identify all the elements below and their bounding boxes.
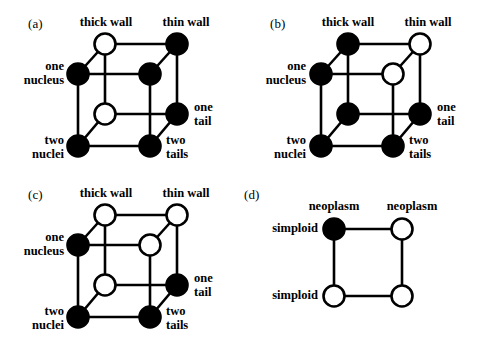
cube-edges xyxy=(78,44,177,146)
panel-d-tag: (d) xyxy=(244,187,259,203)
panel-c-label-two-nuclei-line2: nuclei xyxy=(0,319,64,333)
panel-a-label-two-nuclei-line1: two xyxy=(0,134,64,148)
panel-b-label-one-tail-line1: one xyxy=(437,101,485,115)
panel-a-label-two-tails-line2: tails xyxy=(166,148,222,162)
panel-d-label-neoplasm-right: neoplasm xyxy=(370,200,454,214)
node-front-top-left xyxy=(311,64,332,85)
panel-c-label-one-nucleus-line2: nucleus xyxy=(0,245,64,259)
panel-c-label-one-tail-line2: tail xyxy=(194,286,242,300)
panel-c-label-thin-wall: thin wall xyxy=(148,187,224,201)
panel-a-label-two-tails-line1: two xyxy=(166,134,222,148)
panel-b-label-thick-wall: thick wall xyxy=(306,16,390,30)
node-back-bottom-left xyxy=(95,275,116,296)
panel-c-label-one-nucleus-line1: one xyxy=(0,231,64,245)
panel-b-label-one-nucleus-line2: nucleus xyxy=(244,74,306,88)
node-bottom-right xyxy=(392,286,413,307)
panel-b-label-two-nuclei-line1: two xyxy=(244,134,306,148)
panel-a-label-one-tail-line1: one xyxy=(194,101,242,115)
node-back-bottom-right xyxy=(167,275,188,296)
panel-c-label-one-tail-line1: one xyxy=(194,272,242,286)
node-back-bottom-left xyxy=(338,104,359,125)
panel-b-label-one-tail-line2: tail xyxy=(437,115,485,129)
node-back-bottom-right xyxy=(167,104,188,125)
node-top-left xyxy=(324,219,345,240)
node-front-top-right xyxy=(383,64,404,85)
panel-a-label-one-tail-line2: tail xyxy=(194,115,242,129)
panel-c-label-two-tails-line2: tails xyxy=(166,319,222,333)
panel-c-label-thick-wall: thick wall xyxy=(64,187,148,201)
cube-edges xyxy=(78,215,177,317)
cube-edges xyxy=(321,44,420,146)
panel-d: (d) neoplasm neoplasm simploid simploid xyxy=(244,176,487,351)
node-back-top-left xyxy=(95,34,116,55)
node-back-top-left xyxy=(95,205,116,226)
node-front-bottom-left xyxy=(311,136,332,157)
node-back-top-right xyxy=(167,205,188,226)
panel-d-label-simploid-upper: simploid xyxy=(244,222,318,236)
node-back-bottom-right xyxy=(410,104,431,125)
node-back-top-right xyxy=(167,34,188,55)
panel-b-label-one-nucleus-line1: one xyxy=(244,60,306,74)
node-front-bottom-right xyxy=(383,136,404,157)
node-back-top-left xyxy=(338,34,359,55)
node-bottom-left xyxy=(324,286,345,307)
panel-a-label-one-nucleus-line1: one xyxy=(0,60,64,74)
panel-b: (b) thick wall thin wall one nucleus two… xyxy=(244,0,487,176)
panel-c-tag: (c) xyxy=(28,187,43,203)
node-front-top-right xyxy=(140,64,161,85)
panel-a-label-thin-wall: thin wall xyxy=(148,16,224,30)
figure-panels-abcd: (a) thick wall thin wall one nucleus two… xyxy=(0,0,487,351)
panel-d-label-neoplasm-left: neoplasm xyxy=(292,200,376,214)
panel-c-label-two-nuclei-line1: two xyxy=(0,305,64,319)
node-top-right xyxy=(392,219,413,240)
node-front-bottom-right xyxy=(140,136,161,157)
node-front-top-left xyxy=(68,64,89,85)
square-edges xyxy=(334,229,402,296)
node-front-top-left xyxy=(68,235,89,256)
node-back-bottom-left xyxy=(95,104,116,125)
node-front-bottom-left xyxy=(68,307,89,328)
panel-b-label-thin-wall: thin wall xyxy=(390,16,466,30)
panel-b-label-two-tails-line1: two xyxy=(409,134,465,148)
panel-c: (c) thick wall thin wall one nucleus two… xyxy=(0,176,244,351)
node-back-top-right xyxy=(410,34,431,55)
panel-a-label-thick-wall: thick wall xyxy=(64,16,148,30)
node-front-bottom-right xyxy=(140,307,161,328)
panel-b-label-two-tails-line2: tails xyxy=(409,148,465,162)
node-front-top-right xyxy=(140,235,161,256)
panel-d-label-simploid-lower: simploid xyxy=(244,289,318,303)
panel-a-tag: (a) xyxy=(28,16,43,32)
panel-a: (a) thick wall thin wall one nucleus two… xyxy=(0,0,244,176)
panel-a-label-one-nucleus-line2: nucleus xyxy=(0,74,64,88)
panel-b-tag: (b) xyxy=(270,16,285,32)
square-nodes xyxy=(324,219,413,307)
panel-b-label-two-nuclei-line2: nuclei xyxy=(244,148,306,162)
node-front-bottom-left xyxy=(68,136,89,157)
panel-a-label-two-nuclei-line2: nuclei xyxy=(0,148,64,162)
panel-c-label-two-tails-line1: two xyxy=(166,305,222,319)
